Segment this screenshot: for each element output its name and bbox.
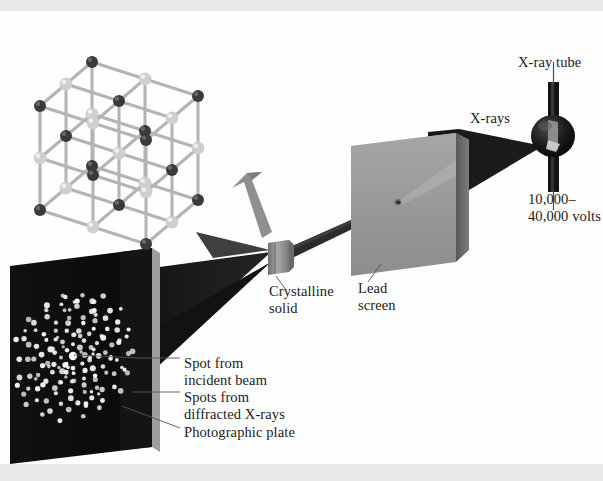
label-voltage: 10,000– 40,000 volts [528,191,601,225]
label-photographic-plate: Photographic plate [184,424,295,441]
crystal-lattice-model [34,56,205,250]
xray-diffraction-figure: X-ray tube X-rays 10,000– 40,000 volts L… [0,0,603,481]
label-xray-tube: X-ray tube [518,54,581,71]
label-spot-incident-beam: Spot from incident beam [184,355,267,389]
lead-screen [351,133,469,276]
x-ray-tube [531,62,575,210]
diagram-artwork [0,0,603,481]
crystalline-solid-cube [268,240,294,275]
diffracted-beam-fan [152,252,271,372]
label-spots-diffracted-xrays: Spots from diffracted X-rays [184,389,285,423]
label-lead-screen: Lead screen [358,280,396,314]
magnify-arrow [232,172,272,238]
label-xrays: X-rays [470,110,510,127]
label-crystalline-solid: Crystalline solid [269,283,334,317]
